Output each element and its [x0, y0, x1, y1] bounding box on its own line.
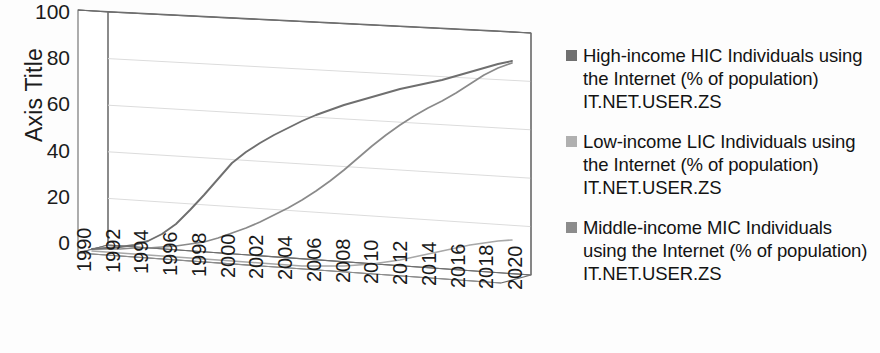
y-axis-tick-label: 40 — [12, 140, 70, 161]
legend-item[interactable]: Low-income LIC Individuals using the Int… — [566, 130, 878, 199]
legend-item[interactable]: Middle-income MIC Individuals using the … — [566, 216, 878, 285]
chart-legend: High-income HIC Individuals using the In… — [566, 44, 878, 302]
left-side-wall — [78, 10, 108, 253]
legend-swatch-icon — [566, 222, 577, 233]
legend-item-label: Low-income LIC Individuals using the Int… — [583, 130, 878, 199]
legend-item-label: High-income HIC Individuals using the In… — [583, 44, 878, 113]
plot-area — [70, 0, 550, 300]
plot-svg — [70, 0, 550, 300]
legend-item-label: Middle-income MIC Individuals using the … — [583, 216, 878, 285]
y-axis-tick-label: 100 — [12, 1, 70, 22]
chart-screenshot: Axis Title 100806040200 — [0, 0, 880, 353]
legend-item[interactable]: High-income HIC Individuals using the In… — [566, 44, 878, 113]
y-axis-tick-label: 20 — [12, 186, 70, 207]
y-axis-tick-label: 60 — [12, 93, 70, 114]
legend-swatch-icon — [566, 136, 577, 147]
y-axis-tick-label: 80 — [12, 47, 70, 68]
y-axis-tick-labels: 100806040200 — [8, 0, 70, 353]
y-axis-tick-label: 0 — [12, 232, 70, 253]
legend-swatch-icon — [566, 50, 577, 61]
back-wall — [108, 12, 531, 275]
